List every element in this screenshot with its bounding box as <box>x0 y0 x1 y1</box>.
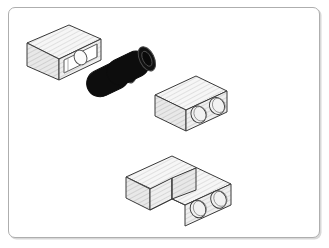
assembly-block-pair <box>126 156 231 226</box>
technical-drawing-artboard <box>0 0 329 248</box>
housing-block-open <box>27 25 101 80</box>
screenshot-canvas <box>0 0 329 248</box>
boss-block-single <box>155 76 227 131</box>
